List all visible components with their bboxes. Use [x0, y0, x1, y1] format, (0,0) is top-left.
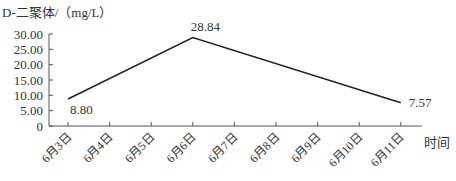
- y-tick-label: 10.00: [14, 88, 43, 103]
- x-tick-label: 6月6日: [164, 130, 199, 165]
- y-axis-label: D-二聚体/（mg/L）: [2, 5, 113, 20]
- y-tick-label: 30.00: [14, 27, 43, 42]
- x-tick-label: 6月11日: [368, 130, 407, 169]
- x-tick-label: 6月5日: [122, 130, 157, 165]
- x-tick-label: 6月4日: [80, 130, 115, 165]
- data-label: 8.80: [70, 102, 93, 117]
- x-axis-label: 时间: [424, 135, 450, 150]
- data-label: 7.57: [409, 95, 432, 110]
- y-tick-label: 25.00: [14, 42, 43, 57]
- y-tick-label: 0: [37, 119, 44, 134]
- y-axis: 05.0010.0015.0020.0025.0030.00: [14, 27, 53, 134]
- y-tick-label: 20.00: [14, 57, 43, 72]
- x-tick-label: 6月3日: [39, 130, 74, 165]
- y-tick-label: 5.00: [20, 103, 43, 118]
- x-tick-label: 6月7日: [205, 130, 240, 165]
- data-label: 28.84: [191, 19, 221, 34]
- series-line: [68, 38, 401, 103]
- x-axis: 6月3日6月4日6月5日6月6日6月7日6月8日6月9日6月10日6月11日: [39, 122, 422, 170]
- x-tick-label: 6月10日: [326, 130, 366, 170]
- y-tick-label: 15.00: [14, 73, 43, 88]
- line-chart: D-二聚体/（mg/L） 05.0010.0015.0020.0025.0030…: [0, 0, 456, 181]
- data-series: 8.8028.847.57: [68, 19, 432, 117]
- x-tick-label: 6月8日: [247, 130, 282, 165]
- x-tick-label: 6月9日: [288, 130, 323, 165]
